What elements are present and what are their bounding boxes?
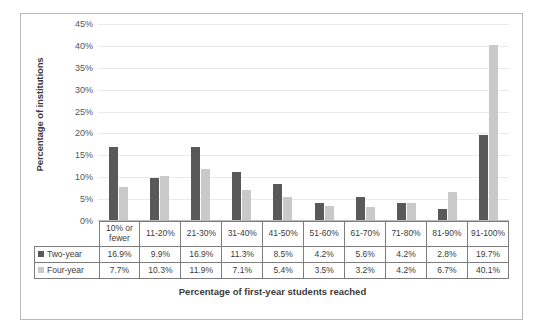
table-value-cell: 3.5% [304,263,345,279]
bar-group [345,24,386,221]
table-category-header: 10% or fewer [99,222,140,247]
bar-two-year [479,135,488,221]
chart-frame: Percentage of institutions 0%5%10%15%20%… [20,13,523,320]
table-value-cell: 16.9% [99,247,140,263]
bar-group [221,24,262,221]
table-value-cell: 40.1% [467,263,508,279]
table-value-cell: 2.8% [427,247,468,263]
table-value-cell: 6.7% [427,263,468,279]
bar-four-year [119,187,128,221]
y-axis-title: Percentage of institutions [34,35,45,195]
table-category-header: 81-90% [427,222,468,247]
table-value-cell: 8.5% [263,247,304,263]
y-axis-tick-label: 45% [75,20,93,29]
legend-item-two-year[interactable]: Two-year [35,247,100,263]
bar-four-year [283,197,292,221]
plot-area: 0%5%10%15%20%25%30%35%40%45% [98,24,509,221]
legend-swatch-icon [38,251,44,257]
bar-two-year [315,203,324,221]
y-axis-tick-label: 35% [75,63,93,72]
table-row-categories: 10% or fewer11-20%21-30%31-40%41-50%51-6… [35,222,509,247]
table-category-header: 21-30% [181,222,222,247]
bar-four-year [448,192,457,221]
y-axis-tick-label: 10% [75,173,93,182]
bar-two-year [150,178,159,221]
data-table: 10% or fewer11-20%21-30%31-40%41-50%51-6… [34,221,509,279]
bar-group [468,24,509,221]
bar-four-year [242,190,251,221]
bar-groups [98,24,509,221]
table-category-header: 31-40% [222,222,263,247]
legend-swatch-icon [38,267,44,273]
bar-group [180,24,221,221]
table-category-header: 41-50% [263,222,304,247]
legend-item-four-year[interactable]: Four-year [35,263,100,279]
table-corner-blank [35,222,100,247]
y-axis-tick-label: 20% [75,129,93,138]
bar-four-year [325,206,334,221]
table-value-cell: 11.9% [181,263,222,279]
bar-two-year [109,147,118,221]
table-category-header: 71-80% [386,222,427,247]
table-value-cell: 7.7% [99,263,140,279]
bar-two-year [191,147,200,221]
bar-two-year [397,203,406,221]
y-axis-tick-label: 40% [75,41,93,50]
bar-group [303,24,344,221]
table-category-header: 91-100% [467,222,508,247]
legend-label: Two-year [47,249,82,259]
bar-four-year [160,176,169,221]
table-category-header: 61-70% [345,222,386,247]
table-row-four-year: Four-year7.7%10.3%11.9%7.1%5.4%3.5%3.2%4… [35,263,509,279]
bar-four-year [201,169,210,221]
bar-group [262,24,303,221]
table-category-header: 11-20% [140,222,181,247]
bar-four-year [489,45,498,221]
bar-two-year [273,184,282,221]
bar-group [98,24,139,221]
table-value-cell: 7.1% [222,263,263,279]
y-axis-tick-label: 25% [75,107,93,116]
y-axis-tick-label: 30% [75,85,93,94]
table-value-cell: 11.3% [222,247,263,263]
table-value-cell: 10.3% [140,263,181,279]
x-axis-title: Percentage of first-year students reache… [21,286,524,297]
bar-four-year [407,203,416,221]
table-value-cell: 4.2% [386,263,427,279]
bar-group [386,24,427,221]
y-axis-tick-label: 5% [80,195,93,204]
table-value-cell: 4.2% [386,247,427,263]
bar-two-year [232,172,241,221]
table-value-cell: 16.9% [181,247,222,263]
legend-label: Four-year [47,265,84,275]
bar-four-year [366,207,375,221]
table-value-cell: 5.4% [263,263,304,279]
bar-group [427,24,468,221]
bar-two-year [356,197,365,222]
table-value-cell: 3.2% [345,263,386,279]
table-value-cell: 4.2% [304,247,345,263]
bar-group [139,24,180,221]
table-category-header: 51-60% [304,222,345,247]
y-axis-tick-label: 15% [75,151,93,160]
table-value-cell: 5.6% [345,247,386,263]
table-row-two-year: Two-year16.9%9.9%16.9%11.3%8.5%4.2%5.6%4… [35,247,509,263]
table-value-cell: 19.7% [467,247,508,263]
table-value-cell: 9.9% [140,247,181,263]
